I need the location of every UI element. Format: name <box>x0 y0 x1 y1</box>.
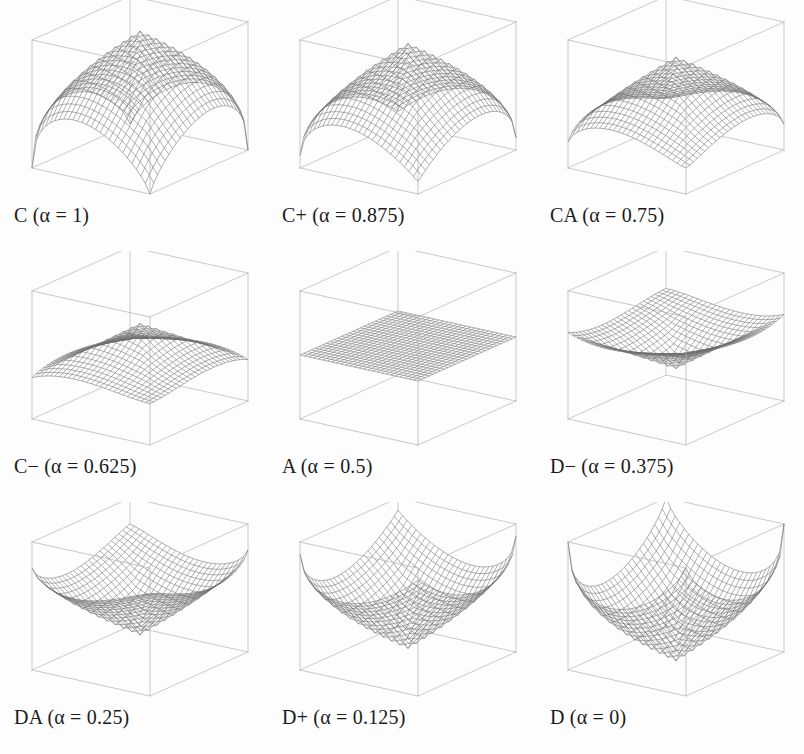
wireframe-surface-plot <box>536 0 804 212</box>
wireframe-surface-plot <box>0 0 268 212</box>
panel-caption: C− (α = 0.625) <box>14 456 137 476</box>
panel-caption: D+ (α = 0.125) <box>282 707 406 727</box>
surface-panel-c: C (α = 1) <box>0 0 268 251</box>
panel-caption: DA (α = 0.25) <box>14 707 129 727</box>
figure-panel-grid: C (α = 1)C+ (α = 0.875)CA (α = 0.75)C− (… <box>0 0 804 754</box>
panel-caption: D (α = 0) <box>550 707 626 727</box>
surface-panel-d: D (α = 0) <box>536 502 804 753</box>
surface-panel-d-: D− (α = 0.375) <box>536 251 804 502</box>
panel-caption: A (α = 0.5) <box>282 456 373 476</box>
surface-panel-a: A (α = 0.5) <box>268 251 536 502</box>
wireframe-surface-plot <box>536 502 804 714</box>
panel-caption: D− (α = 0.375) <box>550 456 674 476</box>
surface-panel-ca: CA (α = 0.75) <box>536 0 804 251</box>
wireframe-surface-plot <box>0 251 268 463</box>
surface-panel-da: DA (α = 0.25) <box>0 502 268 753</box>
surface-panel-cplus: C+ (α = 0.875) <box>268 0 536 251</box>
surface-panel-dplus: D+ (α = 0.125) <box>268 502 536 753</box>
panel-caption: C (α = 1) <box>14 205 89 225</box>
panel-caption: CA (α = 0.75) <box>550 205 664 225</box>
wireframe-surface-plot <box>536 251 804 463</box>
surface-plot-grid: C (α = 1)C+ (α = 0.875)CA (α = 0.75)C− (… <box>0 0 804 753</box>
wireframe-surface-plot <box>0 502 268 714</box>
wireframe-surface-plot <box>268 251 536 463</box>
wireframe-surface-plot <box>268 502 536 714</box>
surface-panel-c-: C− (α = 0.625) <box>0 251 268 502</box>
panel-caption: C+ (α = 0.875) <box>282 205 405 225</box>
wireframe-surface-plot <box>268 0 536 212</box>
